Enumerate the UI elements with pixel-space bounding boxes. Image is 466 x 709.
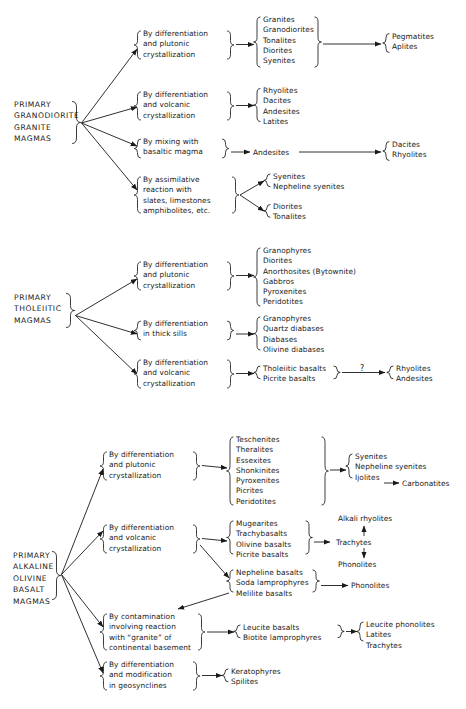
uncertain-link-label: ? <box>360 364 364 373</box>
product-line: Dacites <box>263 96 300 106</box>
source-line: PRIMARY <box>14 292 62 303</box>
source-line: PRIMARY <box>14 99 79 110</box>
process-line: By assimilative <box>143 175 211 185</box>
product-line: Theralites <box>236 445 280 455</box>
secondary-phonolites: Phonolites <box>351 581 389 591</box>
process-tholeiitic-sills: By differentiation in thick sills <box>143 319 208 340</box>
secondary-carbonatites: Carbonatites <box>402 479 449 489</box>
question-mark: ? <box>360 364 364 373</box>
product-line: Tonalites <box>273 212 306 222</box>
secondary-trachytes: Trachytes <box>336 538 371 548</box>
product-line: Syenites <box>263 56 314 66</box>
secondary-dacites-rhyolites: Dacites Rhyolites <box>392 140 427 161</box>
process-line: slates, limestones <box>143 196 211 206</box>
product-line: Andesites <box>263 107 300 117</box>
source-line: BASALT <box>13 584 54 595</box>
process-line: basaltic magma <box>143 147 203 157</box>
source-line: MAGMAS <box>14 133 79 144</box>
product-line: Mugearites <box>236 519 291 529</box>
product-line: Diorites <box>263 256 356 266</box>
process-granodiorite-mixing: By mixing with basaltic magma <box>143 137 203 158</box>
secondary-line: Aplites <box>392 42 434 52</box>
product-line: Gabbros <box>263 277 356 287</box>
product-line: Trachybasalts <box>236 529 291 539</box>
process-line: crystallization <box>143 50 208 60</box>
process-granodiorite-assimilation: By assimilative reaction with slates, li… <box>143 175 211 216</box>
process-line: By mixing with <box>143 137 203 147</box>
product-line: Granophyres <box>263 314 324 324</box>
process-line: By differentiation <box>143 260 208 270</box>
product-line: Olivine diabases <box>263 345 324 355</box>
process-line: and modification <box>109 670 174 680</box>
product-line: Granodiorites <box>263 25 314 35</box>
product-line: Granophyres <box>263 246 356 256</box>
process-alkaline-plutonic: By differentiation and plutonic crystall… <box>109 450 174 481</box>
source-label-alkaline: PRIMARY ALKALINE OLIVINE BASALT MAGMAS <box>13 550 54 607</box>
source-line: MAGMAS <box>14 315 62 326</box>
secondary-line: Leucite phonolites <box>366 620 435 630</box>
product-line: Picrite basalts <box>263 374 326 384</box>
products-alkaline-geosynclines: Keratophyres Spilites <box>231 667 281 688</box>
product-line: Melilite basalts <box>236 589 309 599</box>
secondary-line: Alkali rhyolites <box>338 514 392 524</box>
secondary-line: Dacites <box>392 140 427 150</box>
product-line: Quartz diabases <box>263 324 324 334</box>
secondary-line: Nepheline syenites <box>355 462 426 472</box>
secondary-line: Latites <box>366 630 435 640</box>
product-line: Soda lamprophyres <box>236 578 309 588</box>
process-alkaline-contamination: By contamination involving reaction with… <box>109 612 191 653</box>
product-line: Tholeiitic basalts <box>263 364 326 374</box>
source-line: THOLEIITIC <box>14 303 62 314</box>
process-line: in geosynclines <box>109 681 174 691</box>
process-line: crystallization <box>109 544 174 554</box>
process-line: continental basement <box>109 643 191 653</box>
process-line: amphibolites, etc. <box>143 206 211 216</box>
product-line: Diabases <box>263 335 324 345</box>
products-assimilation-syenites: Syenites Nepheline syenites <box>273 172 344 193</box>
products-tholeiitic-volcanic: Tholeiitic basalts Picrite basalts <box>263 364 326 385</box>
source-line: OLIVINE <box>13 573 54 584</box>
process-line: and volcanic <box>143 368 208 378</box>
source-line: GRANODIORITE <box>14 110 79 121</box>
process-line: By differentiation <box>143 358 208 368</box>
product-line: Diorites <box>263 46 314 56</box>
product-andesites: Andesites <box>253 148 289 158</box>
products-assimilation-diorites: Diorites Tonalites <box>273 202 306 223</box>
process-alkaline-volcanic: By differentiation and volcanic crystall… <box>109 523 174 554</box>
product-line: Pyroxenites <box>263 287 356 297</box>
product-line: Peridotites <box>236 497 280 507</box>
process-tholeiitic-volcanic: By differentiation and volcanic crystall… <box>143 358 208 389</box>
secondary-line: Rhyolites <box>392 150 427 160</box>
product-line: Picrite basalts <box>236 550 291 560</box>
product-line: Essexites <box>236 456 280 466</box>
secondary-alkali-rhyolites: Alkali rhyolites <box>338 514 392 524</box>
product-line: Biotite lamprophyres <box>243 633 321 643</box>
process-line: and plutonic <box>143 270 208 280</box>
product-line: Olivine basalts <box>236 540 291 550</box>
process-line: and plutonic <box>143 39 208 49</box>
source-line: GRANITE <box>14 122 79 133</box>
secondary-line: Pegmatites <box>392 32 434 42</box>
products-nepheline-basalts: Nepheline basalts Soda lamprophyres Meli… <box>236 568 309 599</box>
source-label-granodiorite: PRIMARY GRANODIORITE GRANITE MAGMAS <box>14 99 79 145</box>
process-line: By differentiation <box>109 660 174 670</box>
product-line: Pyroxenites <box>236 476 280 486</box>
process-line: crystallization <box>143 281 208 291</box>
process-line: By differentiation <box>143 319 208 329</box>
product-line: Rhyolites <box>263 86 300 96</box>
product-line: Spilites <box>231 677 281 687</box>
product-line: Teschenites <box>236 435 280 445</box>
products-tholeiitic-sills: Granophyres Quartz diabases Diabases Oli… <box>263 314 324 355</box>
process-granodiorite-volcanic: By differentiation and volcanic crystall… <box>143 90 208 121</box>
process-line: involving reaction <box>109 622 191 632</box>
source-line: PRIMARY <box>13 550 54 561</box>
magma-differentiation-diagram: PRIMARY GRANODIORITE GRANITE MAGMAS By d… <box>0 0 466 709</box>
process-tholeiitic-plutonic: By differentiation and plutonic crystall… <box>143 260 208 291</box>
secondary-line: Trachytes <box>366 641 435 651</box>
secondary-pegmatites-aplites: Pegmatites Aplites <box>392 32 434 53</box>
secondary-leucite-phonolites: Leucite phonolites Latites Trachytes <box>366 620 435 651</box>
process-line: By differentiation <box>109 450 174 460</box>
secondary-phonolites-lower: Phonolites <box>338 560 376 570</box>
product-line: Nepheline syenites <box>273 182 344 192</box>
product-line: Syenites <box>273 172 344 182</box>
